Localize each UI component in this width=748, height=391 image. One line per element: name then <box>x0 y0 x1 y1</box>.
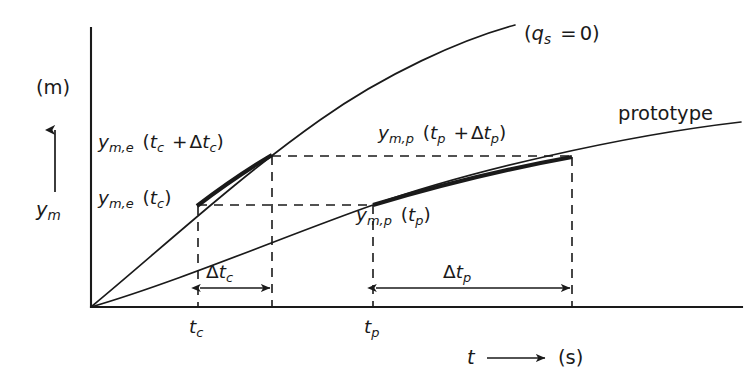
tick-label-tp: tp <box>364 318 379 340</box>
model-curve-emphasis <box>197 155 272 206</box>
label-delta-tc: Δtc <box>206 263 233 285</box>
x-axis-label: t <box>467 348 475 368</box>
label-yme-tc-plus-dtc: ym,e (tc +Δtc) <box>98 133 224 155</box>
tick-label-tc: tc <box>189 318 203 340</box>
label-qs-zero: (qs =0) <box>524 24 600 46</box>
label-yme-tc: ym,e (tc) <box>98 189 171 211</box>
axis-lines <box>91 28 742 307</box>
construction-lines <box>198 156 572 307</box>
diagram-canvas: (m) ym ym,e (tc +Δtc) ym,e (tc) ym,p (tp… <box>0 0 748 391</box>
label-ymp-tp-plus-dtp: ym,p (tp +Δtp) <box>378 124 506 146</box>
x-unit-label: (s) <box>558 348 583 368</box>
label-ymp-tp: ym,p (tp) <box>356 206 431 228</box>
axis-direction-arrows <box>55 130 545 358</box>
label-prototype: prototype <box>618 104 713 124</box>
label-delta-tp: Δtp <box>443 263 471 285</box>
y-unit-label: (m) <box>36 78 70 98</box>
y-axis-label: ym <box>36 200 61 222</box>
prototype-curve-emphasis <box>373 157 572 205</box>
